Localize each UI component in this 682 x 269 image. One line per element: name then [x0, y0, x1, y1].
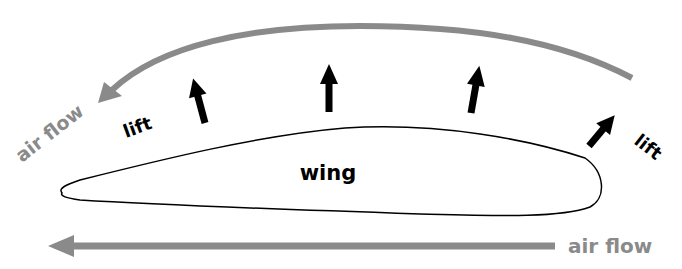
lift-label-left: lift [120, 112, 155, 142]
airflow-bottom-arrow [48, 235, 555, 257]
airflow-label-bottom: air flow [568, 234, 652, 258]
lift-arrow-1 [184, 76, 213, 125]
wing-lift-diagram: wing lift lift air flow air flow [0, 0, 682, 269]
lift-label-right: lift [631, 130, 667, 165]
lift-arrow-2 [320, 64, 338, 112]
diagram-canvas: wing lift lift air flow air flow [0, 0, 682, 269]
airflow-label-top: air flow [11, 100, 88, 167]
lift-arrow-3 [462, 64, 488, 114]
wing-label: wing [300, 161, 357, 185]
lift-arrow-4 [582, 110, 622, 152]
airflow-top-arrow [98, 26, 632, 103]
